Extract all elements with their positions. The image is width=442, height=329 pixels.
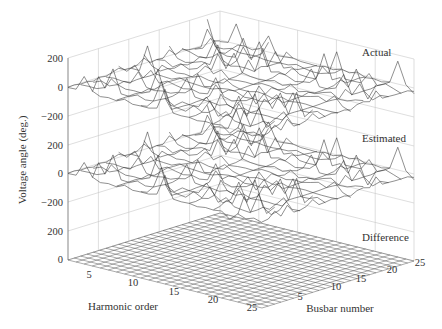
y-tick: 25 bbox=[415, 257, 426, 268]
y-axis-label: Busbar number bbox=[306, 302, 374, 314]
difference-floor-mesh bbox=[68, 213, 414, 308]
z-tick: 0 bbox=[58, 168, 63, 179]
z-tick: −200 bbox=[41, 111, 63, 122]
z-tick: 200 bbox=[47, 53, 63, 64]
x-tick: 10 bbox=[128, 277, 139, 288]
z-axis-label: Voltage angle (deg.) bbox=[16, 115, 29, 204]
x-tick: 20 bbox=[208, 294, 219, 305]
3d-surface-chart: 200 0 −200 200 0 −200 200 0 5 10 15 20 2… bbox=[0, 0, 442, 329]
x-axis-label: Harmonic order bbox=[88, 300, 158, 312]
z-tick: 0 bbox=[58, 82, 63, 93]
y-tick: 10 bbox=[331, 281, 342, 292]
panel-label-difference: Difference bbox=[362, 231, 409, 243]
y-tick: 20 bbox=[387, 264, 398, 275]
x-tick: 5 bbox=[86, 269, 91, 280]
z-tick: −200 bbox=[41, 197, 63, 208]
z-tick: 0 bbox=[58, 254, 63, 265]
panel-label-actual: Actual bbox=[362, 46, 391, 58]
y-tick: 5 bbox=[297, 291, 302, 302]
panel-label-estimated: Estimated bbox=[362, 132, 406, 144]
x-tick: 15 bbox=[169, 286, 180, 297]
z-tick: 200 bbox=[47, 226, 63, 237]
z-tick: 200 bbox=[47, 140, 63, 151]
y-tick: 15 bbox=[356, 273, 367, 284]
x-tick: 25 bbox=[247, 302, 258, 313]
